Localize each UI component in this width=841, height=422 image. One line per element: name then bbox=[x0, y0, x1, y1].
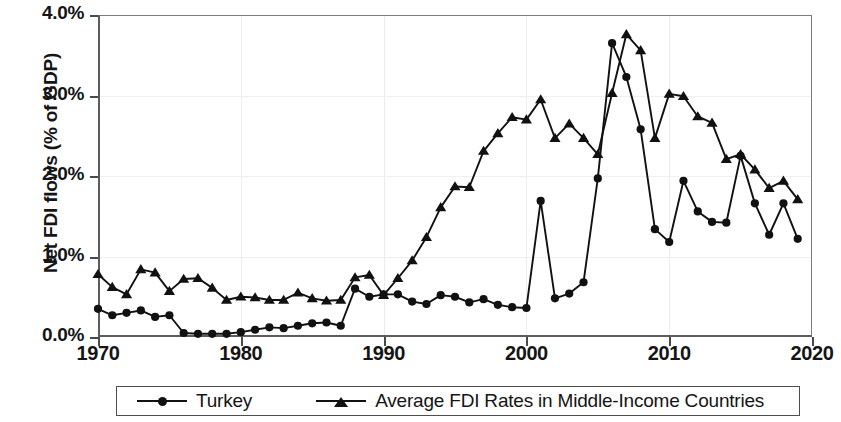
data-point-circle bbox=[194, 330, 202, 338]
data-point-circle bbox=[637, 125, 645, 133]
data-point-triangle bbox=[364, 270, 375, 279]
y-tick-label: 2.0% bbox=[4, 163, 84, 185]
chart-legend: Turkey Average FDI Rates in Middle-Incom… bbox=[116, 386, 800, 416]
data-point-circle bbox=[237, 328, 245, 336]
data-point-circle bbox=[294, 322, 302, 330]
data-point-circle bbox=[551, 294, 559, 302]
data-point-circle bbox=[165, 311, 173, 319]
data-point-triangle bbox=[292, 287, 303, 296]
data-point-circle bbox=[722, 219, 730, 227]
data-point-triangle bbox=[135, 264, 146, 273]
legend-label: Turkey bbox=[196, 390, 252, 412]
data-point-circle bbox=[365, 293, 373, 301]
data-point-circle bbox=[794, 235, 802, 243]
data-point-circle bbox=[465, 298, 473, 306]
data-point-triangle bbox=[335, 295, 346, 304]
x-tick-label: 1980 bbox=[196, 342, 286, 365]
data-point-triangle bbox=[507, 112, 518, 121]
data-point-triangle bbox=[435, 202, 446, 211]
data-point-circle bbox=[108, 311, 116, 319]
data-point-circle bbox=[394, 290, 402, 298]
series-lines bbox=[98, 15, 812, 337]
data-point-circle bbox=[137, 306, 145, 314]
data-point-circle bbox=[422, 300, 430, 308]
data-point-circle bbox=[651, 225, 659, 233]
legend-label: Average FDI Rates in Middle-Income Count… bbox=[375, 390, 764, 412]
data-point-triangle bbox=[92, 269, 103, 278]
legend-item-average-middle-income: Average FDI Rates in Middle-Income Count… bbox=[316, 387, 764, 415]
data-point-circle bbox=[537, 197, 545, 205]
data-point-circle bbox=[494, 301, 502, 309]
x-tick-label: 2000 bbox=[481, 342, 571, 365]
data-point-circle bbox=[265, 323, 273, 331]
data-point-circle bbox=[779, 199, 787, 207]
data-point-circle bbox=[665, 238, 673, 246]
circle-marker-icon bbox=[137, 394, 187, 408]
series-triangle bbox=[92, 29, 803, 305]
data-point-circle bbox=[408, 297, 416, 305]
data-point-triangle bbox=[121, 289, 132, 298]
triangle-marker-icon bbox=[316, 394, 366, 408]
data-point-circle bbox=[708, 218, 716, 226]
data-point-circle bbox=[208, 330, 216, 338]
data-point-circle bbox=[180, 329, 188, 337]
data-point-circle bbox=[565, 289, 573, 297]
x-tick-label: 1970 bbox=[53, 342, 143, 365]
data-point-circle bbox=[451, 293, 459, 301]
x-tick-label: 2020 bbox=[767, 342, 841, 365]
data-point-circle bbox=[251, 326, 259, 334]
data-point-triangle bbox=[564, 118, 575, 127]
data-point-circle bbox=[522, 304, 530, 312]
data-point-circle bbox=[608, 39, 616, 47]
data-point-triangle bbox=[735, 149, 746, 158]
data-point-triangle bbox=[778, 176, 789, 185]
data-point-triangle bbox=[664, 89, 675, 98]
data-point-circle bbox=[437, 291, 445, 299]
data-point-triangle bbox=[192, 273, 203, 282]
data-point-circle bbox=[622, 73, 630, 81]
y-tick-label: 3.0% bbox=[4, 83, 84, 105]
chart-figure: Net FDI flows (% of GDP) 0.0%1.0%2.0%3.0… bbox=[0, 0, 841, 422]
data-point-circle bbox=[751, 199, 759, 207]
data-point-circle bbox=[765, 231, 773, 239]
data-point-circle bbox=[594, 174, 602, 182]
data-point-circle bbox=[280, 324, 288, 332]
data-point-triangle bbox=[449, 181, 460, 190]
data-point-circle bbox=[351, 285, 359, 293]
data-point-triangle bbox=[421, 232, 432, 241]
data-point-triangle bbox=[235, 291, 246, 300]
data-point-circle bbox=[322, 318, 330, 326]
data-point-circle bbox=[151, 313, 159, 321]
series-circle bbox=[94, 39, 802, 338]
plot-area bbox=[98, 15, 812, 337]
data-point-triangle bbox=[407, 255, 418, 264]
data-point-triangle bbox=[621, 29, 632, 38]
data-point-triangle bbox=[649, 133, 660, 142]
data-point-circle bbox=[337, 322, 345, 330]
data-point-circle bbox=[579, 278, 587, 286]
data-point-triangle bbox=[207, 283, 218, 292]
legend-item-turkey: Turkey bbox=[137, 387, 252, 415]
x-tick-label: 1990 bbox=[339, 342, 429, 365]
data-point-circle bbox=[122, 309, 130, 317]
y-tick-label: 1.0% bbox=[4, 244, 84, 266]
data-point-circle bbox=[679, 177, 687, 185]
data-point-circle bbox=[308, 319, 316, 327]
data-point-circle bbox=[222, 330, 230, 338]
data-point-circle bbox=[694, 207, 702, 215]
data-point-triangle bbox=[535, 94, 546, 103]
data-point-circle bbox=[508, 303, 516, 311]
data-point-circle bbox=[479, 295, 487, 303]
data-point-circle bbox=[94, 305, 102, 313]
x-tick-label: 2010 bbox=[624, 342, 714, 365]
y-tick-label: 4.0% bbox=[4, 2, 84, 24]
